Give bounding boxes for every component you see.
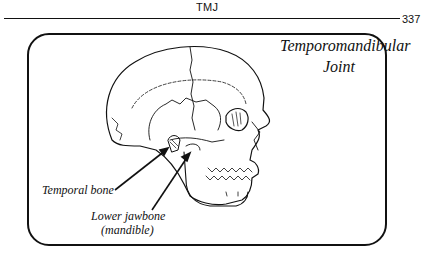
label-mandible: (mandible) <box>101 223 154 238</box>
squamous-suture <box>149 98 221 140</box>
figure-title-line2: Joint <box>323 58 355 76</box>
temporal-bone-pointer <box>115 150 166 190</box>
coronoid <box>186 144 200 150</box>
lambdoid-suture <box>112 118 122 140</box>
mandible-pointer <box>152 156 188 210</box>
coronal-suture <box>190 47 195 130</box>
figure-title-line1: Temporomandibular <box>280 37 410 55</box>
lower-teeth <box>206 176 250 180</box>
label-lower-jawbone: Lower jawbone <box>91 209 165 224</box>
zygomatic-arch <box>170 138 224 142</box>
cranium-outline <box>107 47 270 205</box>
temporal-line <box>132 80 246 108</box>
label-temporal-bone: Temporal bone <box>42 183 114 198</box>
upper-teeth <box>208 168 252 172</box>
